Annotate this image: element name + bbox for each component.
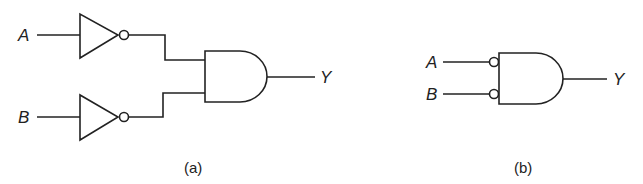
input-a-inversion-bubble <box>490 58 499 67</box>
output-label: Y <box>320 68 333 87</box>
inverter-b-icon <box>80 95 118 140</box>
inverter-a-icon <box>80 14 118 58</box>
output-label: Y <box>613 70 626 89</box>
and-gate-icon <box>499 53 563 104</box>
diagram-a: A B Y (a) <box>17 14 333 176</box>
input-a-label: A <box>425 53 437 72</box>
inverter-a-output-wire <box>129 35 206 60</box>
inverter-a-bubble <box>120 31 129 40</box>
caption-a: (a) <box>184 159 202 176</box>
input-b-label: B <box>426 85 437 104</box>
logic-diagram: A B Y (a) A B Y (b) <box>0 0 643 184</box>
input-b-label: B <box>18 108 29 127</box>
inverter-b-output-wire <box>129 93 206 117</box>
inverter-b-bubble <box>120 113 129 122</box>
caption-b: (b) <box>514 159 532 176</box>
input-a-label: A <box>17 26 29 45</box>
diagram-b: A B Y (b) <box>425 53 626 176</box>
input-b-inversion-bubble <box>490 90 499 99</box>
and-gate-icon <box>205 51 267 102</box>
